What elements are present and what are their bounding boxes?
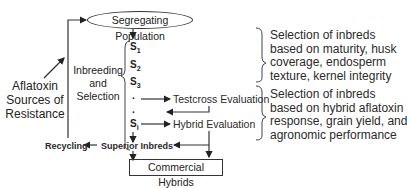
testcross-evaluation-label: Testcross Evaluation <box>173 93 269 105</box>
selection-criteria-1: Selection of inbreds based on maturity, … <box>270 29 397 83</box>
generation-dot-1: . <box>132 90 135 101</box>
criteria-2-line-4: agronomic performance <box>270 129 407 143</box>
gen-base: . <box>132 104 135 115</box>
gen-sub: 2 <box>137 65 141 72</box>
recycling-label: Recycling <box>45 140 88 152</box>
sources-line-2: Sources of <box>4 93 66 107</box>
generation-s1: S1 <box>130 41 141 54</box>
selection-criteria-2: Selection of inbreds based on hybrid afl… <box>270 88 407 142</box>
gen-sub: 3 <box>137 82 141 89</box>
criteria-1-line-1: Selection of inbreds <box>270 29 397 43</box>
superior-inbreds-label: Superior Inbreds <box>101 140 173 152</box>
criteria-1-line-4: texture, kernel integrity <box>270 70 397 84</box>
sources-line-1: Aflatoxin <box>4 79 66 93</box>
inbreeding-selection-label: Inbreeding and Selection <box>73 64 123 103</box>
generation-si: Si <box>130 118 139 131</box>
gen-sub: 1 <box>137 47 141 54</box>
segregating-population-node: Segregating Population <box>87 11 193 29</box>
process-line-3: Selection <box>73 90 123 103</box>
process-line-2: and <box>73 77 123 90</box>
generation-dot-2: . <box>132 104 135 115</box>
hybrid-evaluation-label: Hybrid Evaluation <box>173 118 255 130</box>
commercial-hybrids-node: Commercial Hybrids <box>129 159 223 176</box>
criteria-2-line-3: response, grain yield, and <box>270 115 407 129</box>
process-line-1: Inbreeding <box>73 64 123 77</box>
criteria-2-line-2: based on hybrid aflatoxin <box>270 102 407 116</box>
generation-s3: S3 <box>130 76 141 89</box>
aflatoxin-sources-label: Aflatoxin Sources of Resistance <box>4 79 66 121</box>
sources-line-3: Resistance <box>4 107 66 121</box>
segregating-population-label: Segregating Population <box>112 14 169 42</box>
gen-sub: i <box>137 124 139 131</box>
gen-base: S <box>130 41 137 52</box>
gen-base: S <box>130 118 137 129</box>
gen-base: . <box>132 90 135 101</box>
generation-s2: S2 <box>130 59 141 72</box>
gen-base: S <box>130 59 137 70</box>
criteria-1-line-2: based on maturity, husk <box>270 43 397 57</box>
gen-base: S <box>130 76 137 87</box>
criteria-2-line-1: Selection of inbreds <box>270 88 407 102</box>
criteria-1-line-3: coverage, endosperm <box>270 56 397 70</box>
